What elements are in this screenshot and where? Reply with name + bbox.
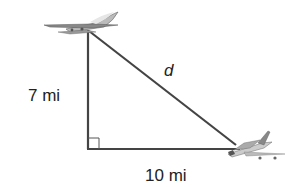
triangle-diagram: 7 mi d 10 mi [0,0,297,187]
hypotenuse-label: d [164,61,174,80]
airplane-bottom-right-icon [228,131,285,160]
distance-diagram: 7 mi d 10 mi [0,0,297,187]
hypotenuse [89,31,236,145]
vertical-side-label: 7 mi [28,86,60,105]
right-angle-marker [88,138,99,149]
horizontal-side-label: 10 mi [145,166,187,185]
airplane-top-icon [44,12,118,34]
